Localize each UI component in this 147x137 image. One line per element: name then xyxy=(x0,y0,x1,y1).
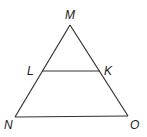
label-k: K xyxy=(104,64,113,78)
label-o: O xyxy=(130,118,139,132)
triangle-diagram: M L K N O xyxy=(0,0,147,137)
label-n: N xyxy=(4,118,13,132)
label-l: L xyxy=(27,64,34,78)
segment-no xyxy=(15,116,128,117)
label-m: M xyxy=(65,8,75,22)
